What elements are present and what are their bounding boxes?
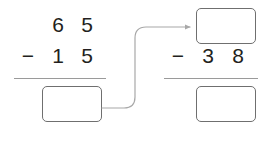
right-subtrahend-ones-digit: 8 xyxy=(230,45,246,66)
left-minuend-ones-digit: 5 xyxy=(79,14,95,35)
flow-arrow-path xyxy=(102,27,190,108)
right-minus-operator: − xyxy=(170,45,186,66)
left-minus-operator: − xyxy=(20,45,36,66)
right-subtrahend-tens-digit: 3 xyxy=(200,45,216,66)
left-subtrahend-tens-digit: 1 xyxy=(50,45,66,66)
right-problem-rule xyxy=(164,78,258,79)
worksheet-canvas: 6 5 − 1 5 − 3 8 xyxy=(0,0,272,143)
right-problem-answer-box[interactable] xyxy=(196,86,256,122)
left-subtrahend-ones-digit: 5 xyxy=(79,45,95,66)
right-problem-minuend-box[interactable] xyxy=(196,8,256,44)
left-problem-rule xyxy=(14,78,106,79)
left-minuend-tens-digit: 6 xyxy=(50,14,66,35)
left-problem-answer-box[interactable] xyxy=(42,86,102,122)
